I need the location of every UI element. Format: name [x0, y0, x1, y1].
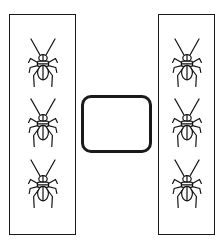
cricket-icon[interactable] [167, 97, 207, 149]
empty-container-card[interactable] [81, 95, 152, 153]
insect-panel-right[interactable] [158, 14, 215, 235]
cricket-icon[interactable] [23, 158, 63, 210]
cricket-icon[interactable] [23, 37, 63, 89]
cricket-icon[interactable] [167, 37, 207, 89]
scene-canvas [0, 0, 223, 242]
cricket-icon[interactable] [23, 97, 63, 149]
insect-panel-left[interactable] [9, 14, 76, 235]
cricket-icon[interactable] [167, 158, 207, 210]
